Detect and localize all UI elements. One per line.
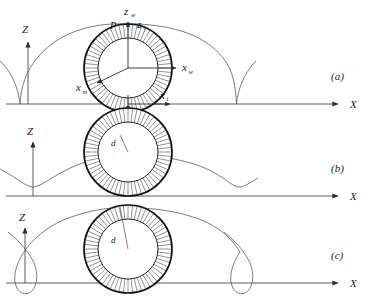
xm-axis-label: x bbox=[75, 81, 81, 93]
panel-label-c: (c) bbox=[331, 249, 344, 262]
xt-axis-label: x bbox=[159, 89, 165, 101]
zw-axis-subscript: w bbox=[131, 11, 136, 18]
panel-c: X Z d (c) bbox=[6, 205, 358, 294]
figure-container: X Z P z w z t x w x m x t z m bbox=[0, 0, 378, 307]
prolate-loop-right-c bbox=[224, 232, 253, 294]
wheel-b bbox=[84, 108, 172, 196]
x-axis-label-c: X bbox=[349, 277, 358, 289]
panel-b: X Z d (b) bbox=[0, 108, 358, 202]
x-axis-label-a: X bbox=[349, 98, 358, 110]
xw-axis-label: x bbox=[181, 61, 187, 73]
zt-axis-subscript: t bbox=[144, 24, 146, 31]
z-axis-label-c: Z bbox=[19, 211, 26, 223]
zw-axis-label: z bbox=[123, 5, 129, 17]
zt-axis-label: z bbox=[136, 18, 142, 30]
panel-a: X Z P z w z t x w x m x t z m bbox=[0, 5, 358, 121]
cycloid-curve-a-right-tail bbox=[237, 61, 257, 104]
panel-label-a: (a) bbox=[331, 70, 344, 83]
x-axis-label-b: X bbox=[349, 190, 358, 202]
z-axis-label-a: Z bbox=[22, 23, 29, 35]
z-axis-label-b: Z bbox=[27, 125, 34, 137]
cycloid-figure: X Z P z w z t x w x m x t z m bbox=[0, 0, 378, 307]
panel-label-b: (b) bbox=[331, 162, 344, 175]
d-label-b: d bbox=[111, 138, 116, 148]
cycloid-curve-a-left-tail bbox=[0, 61, 20, 104]
xt-axis-subscript: t bbox=[167, 95, 169, 102]
wheel-c bbox=[84, 205, 172, 293]
xm-axis-subscript: m bbox=[83, 88, 88, 95]
point-p-label: P bbox=[109, 20, 116, 31]
xw-axis-subscript: w bbox=[189, 68, 194, 75]
d-label-c: d bbox=[111, 235, 116, 245]
